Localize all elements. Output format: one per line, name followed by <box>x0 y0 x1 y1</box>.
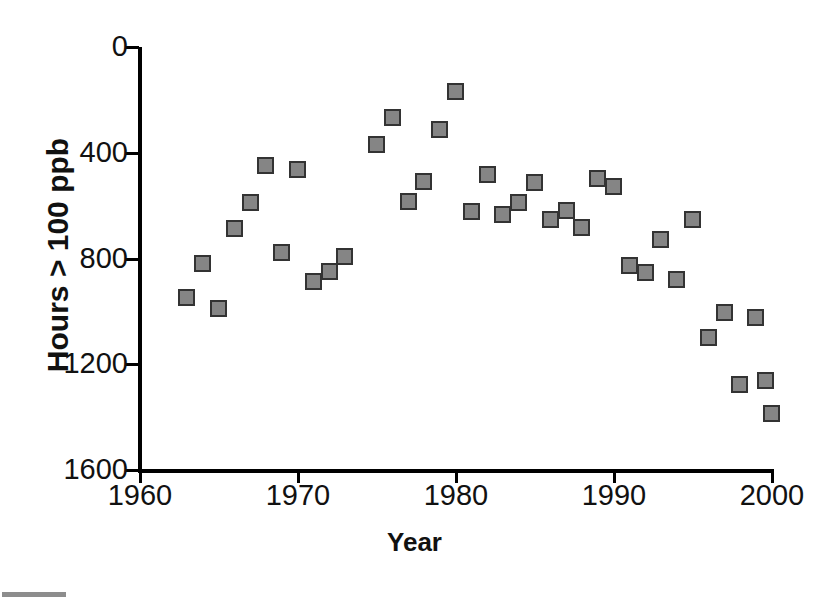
data-point-marker <box>178 289 195 306</box>
data-point-marker <box>242 194 259 211</box>
data-point-marker <box>747 309 764 326</box>
data-point-marker <box>668 271 685 288</box>
data-point-marker <box>194 255 211 272</box>
data-point-marker <box>510 194 527 211</box>
data-point-marker <box>716 304 733 321</box>
data-point-marker <box>447 83 464 100</box>
data-point-marker <box>652 231 669 248</box>
data-point-marker <box>210 300 227 317</box>
data-point-marker <box>589 170 606 187</box>
data-point-marker <box>731 376 748 393</box>
data-point-marker <box>479 166 496 183</box>
data-point-marker <box>542 211 559 228</box>
data-point-marker <box>336 248 353 265</box>
scatter-chart-figure: Hours > 100 ppb Year 1600120080040001960… <box>0 0 829 599</box>
data-point-marker <box>226 220 243 237</box>
data-point-marker <box>289 161 306 178</box>
plot-area <box>0 0 829 599</box>
data-point-marker <box>273 244 290 261</box>
data-point-marker <box>321 263 338 280</box>
data-point-marker <box>415 173 432 190</box>
data-point-marker <box>526 174 543 191</box>
data-point-marker <box>763 405 780 422</box>
data-point-marker <box>384 109 401 126</box>
data-point-marker <box>305 273 322 290</box>
data-point-marker <box>494 206 511 223</box>
data-point-marker <box>558 202 575 219</box>
data-point-marker <box>431 121 448 138</box>
data-point-marker <box>400 193 417 210</box>
data-point-marker <box>257 157 274 174</box>
data-point-marker <box>573 219 590 236</box>
data-point-marker <box>463 203 480 220</box>
data-point-marker <box>368 136 385 153</box>
data-point-marker <box>621 257 638 274</box>
data-point-marker <box>700 329 717 346</box>
data-point-marker <box>605 178 622 195</box>
data-point-marker <box>757 372 774 389</box>
bottom-edge-artifact <box>2 592 66 597</box>
data-point-marker <box>684 211 701 228</box>
data-point-marker <box>637 264 654 281</box>
